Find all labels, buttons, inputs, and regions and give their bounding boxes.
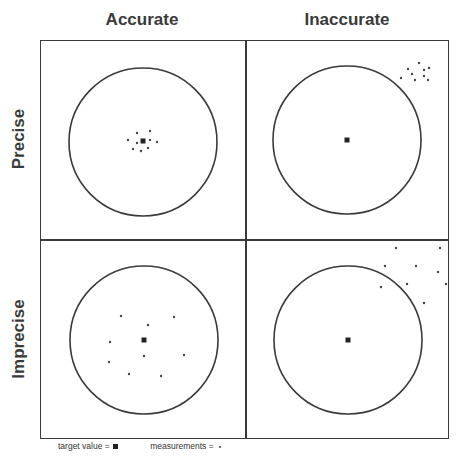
target-value-marker xyxy=(142,338,147,343)
measurement-dot xyxy=(400,77,402,79)
measurement-dot xyxy=(427,79,429,81)
legend-measurements: measurements = xyxy=(150,441,221,451)
measurement-dot xyxy=(411,73,413,75)
legend: target value = measurements = xyxy=(58,441,251,451)
target-value-marker xyxy=(141,139,146,144)
measurement-dot xyxy=(395,247,397,249)
measurement-dot xyxy=(415,265,417,267)
target-value-marker xyxy=(346,338,351,343)
target-value-marker xyxy=(345,138,350,143)
measurement-dot xyxy=(423,69,425,71)
measurement-dot xyxy=(136,132,138,134)
measurement-dot xyxy=(439,247,441,249)
measurement-dot xyxy=(149,139,151,141)
measurement-dot xyxy=(140,150,142,152)
measurement-dot xyxy=(160,375,162,377)
measurement-dot xyxy=(109,341,111,343)
legend-measurement-label: measurements = xyxy=(150,441,214,451)
measurement-dot xyxy=(423,302,425,304)
panel-inaccurate-precise xyxy=(246,41,450,239)
panel-accurate-precise xyxy=(41,41,245,239)
legend-target: target value = xyxy=(58,441,118,451)
measurement-dot xyxy=(120,315,122,317)
legend-target-label: target value = xyxy=(58,441,110,451)
panel-accurate-imprecise xyxy=(41,239,245,439)
measurement-dot xyxy=(147,324,149,326)
measurement-dot xyxy=(173,316,175,318)
measurement-dot xyxy=(132,148,134,150)
measurement-dot xyxy=(149,130,151,132)
measurement-dot-icon xyxy=(219,446,222,449)
row-title-precise-label: Precise xyxy=(9,109,29,170)
target-grid xyxy=(40,40,449,439)
column-title-inaccurate: Inaccurate xyxy=(245,10,449,30)
row-title-imprecise: Imprecise xyxy=(4,238,34,439)
measurement-dot xyxy=(136,142,138,144)
measurement-dot xyxy=(183,354,185,356)
column-title-accurate: Accurate xyxy=(40,10,244,30)
measurement-dot xyxy=(380,286,382,288)
measurement-dot xyxy=(156,141,158,143)
measurement-dot xyxy=(437,271,439,273)
measurement-dot xyxy=(445,283,447,285)
row-title-imprecise-label: Imprecise xyxy=(9,299,29,378)
panel-inaccurate-imprecise xyxy=(246,239,450,439)
measurement-dot xyxy=(128,373,130,375)
measurement-dot xyxy=(143,355,145,357)
measurement-dot xyxy=(428,67,430,69)
measurement-dot xyxy=(418,62,420,64)
measurement-dot xyxy=(147,147,149,149)
measurement-dot xyxy=(406,283,408,285)
row-title-precise: Precise xyxy=(4,40,34,238)
measurement-dot xyxy=(127,139,129,141)
measurement-dot xyxy=(384,265,386,267)
measurement-dot xyxy=(407,68,409,70)
measurement-dot xyxy=(414,79,416,81)
target-square-icon xyxy=(113,444,118,449)
measurement-dot xyxy=(423,75,425,77)
measurement-dot xyxy=(108,361,110,363)
